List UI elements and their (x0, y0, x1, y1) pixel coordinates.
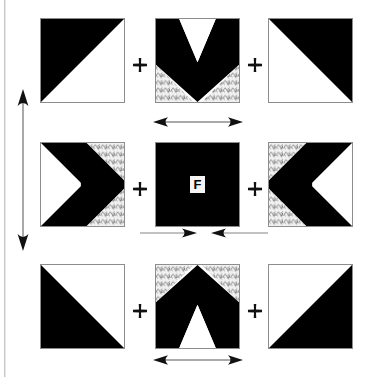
patch-bottom-right[interactable] (268, 264, 353, 349)
patch-bottom-left-art (41, 265, 124, 348)
patch-bottom-center-art (156, 265, 239, 348)
patch-bottom-left[interactable] (40, 264, 125, 349)
double-headed-arrow-icon (152, 352, 244, 368)
plus-sign-glyph (131, 302, 149, 320)
patch-bottom-center[interactable] (155, 264, 240, 349)
patch-bottom-right-art (269, 265, 352, 348)
plus-sign-glyph (131, 56, 149, 74)
plus-sign-glyph (131, 180, 149, 198)
plus-icon-bottom-right (246, 302, 264, 320)
arrow-vertical-height (14, 88, 32, 252)
plus-icon-middle-left (131, 180, 149, 198)
double-headed-arrow-icon (152, 114, 244, 130)
patch-top-left[interactable] (40, 18, 125, 103)
patch-middle-right-art (269, 143, 352, 226)
page-margin-rule-secondary (5, 0, 6, 377)
plus-sign-glyph (246, 302, 264, 320)
arrow-center-inward (140, 226, 268, 240)
plus-sign-glyph (246, 180, 264, 198)
arrow-bottom-width (152, 352, 244, 368)
arrow-top-width (152, 114, 244, 130)
inward-arrow-pair-icon (140, 226, 268, 240)
plus-icon-middle-right (246, 180, 264, 198)
plus-icon-top-left (131, 56, 149, 74)
patch-top-center[interactable] (155, 18, 240, 103)
patch-top-right[interactable] (268, 18, 353, 103)
diagram-canvas: F (0, 0, 368, 377)
patch-middle-left[interactable] (40, 142, 125, 227)
plus-sign-glyph (246, 56, 264, 74)
double-headed-arrow-vertical-icon (14, 88, 32, 252)
patch-top-left-art (41, 19, 124, 102)
center-patch-label: F (190, 176, 205, 193)
patch-top-right-art (269, 19, 352, 102)
patch-middle-left-art (41, 143, 124, 226)
patch-middle-right[interactable] (268, 142, 353, 227)
plus-icon-bottom-left (131, 302, 149, 320)
plus-icon-top-right (246, 56, 264, 74)
patch-top-center-art (156, 19, 239, 102)
